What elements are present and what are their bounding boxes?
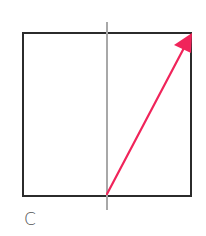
vector-diagram [0,0,206,236]
vector-arrow-shaft [107,46,185,194]
panel-label: C [24,211,36,228]
